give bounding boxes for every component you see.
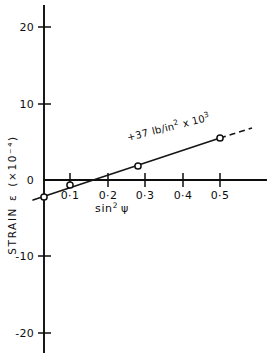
fit-line-dashed-extension <box>220 128 252 138</box>
data-point[interactable] <box>217 135 223 141</box>
y-axis-title-symbol: ε <box>6 194 18 201</box>
x-tick-label-0-5: 0·5 <box>211 189 229 202</box>
y-tick-label-0: 0 <box>27 174 34 187</box>
y-tick-label-neg20: -20 <box>15 327 34 340</box>
y-axis-title: STRAINε(×10⁻⁴) <box>6 135 18 254</box>
x-axis-title-psi: ψ <box>121 202 129 215</box>
annotation-multiplier: x 10 <box>181 113 206 129</box>
chart-figure: 20 10 0 -10 -20 0·1 0·2 0·3 0·4 0·5 sin2… <box>0 0 272 359</box>
data-point[interactable] <box>67 182 73 188</box>
axis-group <box>44 6 266 352</box>
x-axis-title-sin: sin <box>95 202 113 215</box>
data-point[interactable] <box>135 163 141 169</box>
data-point[interactable] <box>41 194 47 200</box>
x-axis-title-exponent: 2 <box>113 201 118 210</box>
y-tick-label-20: 20 <box>19 21 34 34</box>
annotation-multiplier-exponent: 3 <box>203 110 210 120</box>
stress-annotation: +37lb/in2x 103 <box>125 110 211 143</box>
x-axis-tick-labels: 0·1 0·2 0·3 0·4 0·5 <box>61 189 229 202</box>
y-axis-title-scale: (×10⁻⁴) <box>6 135 18 186</box>
svg-text:sin2ψ: sin2ψ <box>95 201 129 215</box>
svg-text:STRAINε(×10⁻⁴): STRAINε(×10⁻⁴) <box>6 135 18 254</box>
annotation-unit: lb/in <box>151 121 176 137</box>
svg-text:+37lb/in2x 103: +37lb/in2x 103 <box>125 110 211 143</box>
x-tick-label-0-1: 0·1 <box>61 189 79 202</box>
y-tick-label-10: 10 <box>19 98 34 111</box>
x-axis-title: sin2ψ <box>95 201 129 215</box>
plot-canvas: 20 10 0 -10 -20 0·1 0·2 0·3 0·4 0·5 sin2… <box>0 0 272 359</box>
annotation-unit-exponent: 2 <box>172 117 179 127</box>
x-tick-label-0-4: 0·4 <box>174 189 192 202</box>
annotation-value: +37 <box>126 127 150 143</box>
x-tick-label-0-3: 0·3 <box>136 189 154 202</box>
y-axis-title-name: STRAIN <box>6 207 18 255</box>
